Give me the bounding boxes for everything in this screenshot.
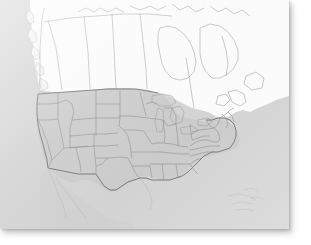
- map-card[interactable]: [0, 0, 289, 229]
- caribbean-faint-features: [228, 188, 264, 211]
- north-america-map[interactable]: [0, 0, 289, 229]
- screenshot-canvas: North America reference map Faded graysc…: [0, 0, 311, 245]
